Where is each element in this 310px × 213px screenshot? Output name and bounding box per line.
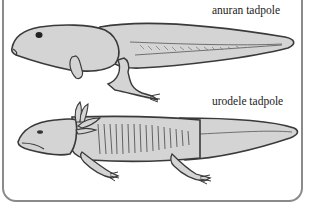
urodele-tadpole-label: urodele tadpole xyxy=(212,95,283,107)
urodele-tadpole xyxy=(18,102,297,184)
anuran-tadpole-label: anuran tadpole xyxy=(212,4,280,16)
anuran-tadpole xyxy=(12,23,294,102)
